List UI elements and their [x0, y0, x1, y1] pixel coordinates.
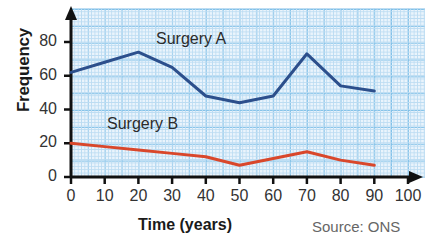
x-axis-arrowhead [409, 171, 423, 183]
x-tick-label: 100 [388, 187, 425, 205]
axis-group [65, 6, 423, 183]
y-tick-label: 60 [23, 66, 57, 84]
series-line-surgery-a [71, 52, 374, 103]
y-axis-arrowhead [65, 6, 77, 20]
line-chart: Frequency 020406080 01020304050607080901… [0, 0, 425, 241]
series-line-surgery-b [71, 143, 374, 165]
series-label-surgery-b: Surgery B [107, 115, 178, 133]
source-note: Source: ONS [312, 218, 400, 235]
y-tick-label: 40 [23, 100, 57, 118]
x-axis-title: Time (years) [95, 216, 275, 234]
y-tick-label: 80 [23, 32, 57, 50]
y-tick-label: 0 [23, 167, 57, 185]
series-label-surgery-a: Surgery A [156, 30, 226, 48]
y-tick-label: 20 [23, 133, 57, 151]
